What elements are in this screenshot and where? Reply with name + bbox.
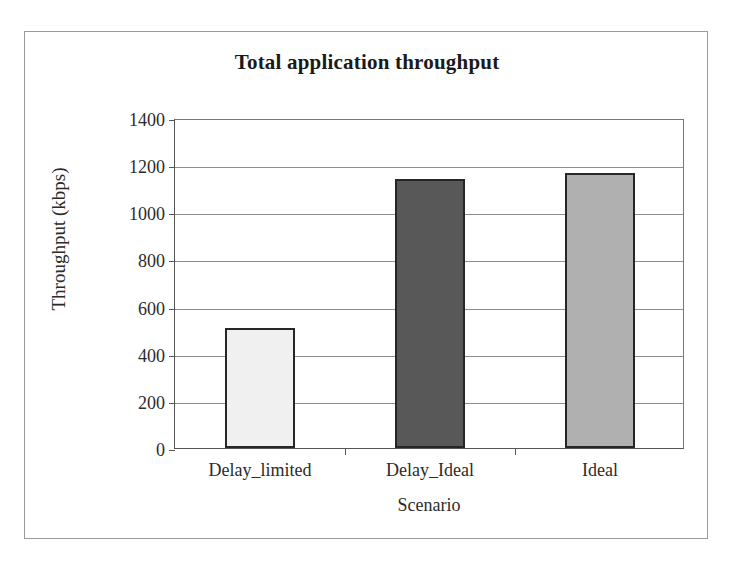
y-tick-label-400: 400 [138, 345, 165, 366]
chart-title: Total application throughput [25, 50, 709, 75]
y-axis-title: Throughput (kbps) [48, 139, 70, 339]
y-tick-label-1400: 1400 [129, 110, 165, 131]
y-tick-label-600: 600 [138, 298, 165, 319]
plot-area: 1400120010008006004002000 Delay_limitedD… [174, 119, 684, 449]
x-tick-mark-1 [345, 448, 346, 455]
y-tick-label-800: 800 [138, 251, 165, 272]
bar-ideal [565, 173, 635, 448]
y-tick-mark-400 [169, 356, 175, 357]
gridline-1200 [175, 167, 683, 168]
y-tick-mark-200 [169, 403, 175, 404]
x-tick-mark-2 [515, 448, 516, 455]
y-tick-label-200: 200 [138, 392, 165, 413]
y-tick-mark-600 [169, 309, 175, 310]
y-tick-label-1200: 1200 [129, 157, 165, 178]
y-tick-label-1000: 1000 [129, 204, 165, 225]
bar-delay_limited [225, 328, 295, 448]
y-tick-label-0: 0 [156, 440, 165, 461]
x-category-label-delay_ideal: Delay_Ideal [386, 460, 474, 481]
y-tick-mark-0 [169, 450, 175, 451]
y-tick-mark-1400 [169, 120, 175, 121]
y-tick-mark-1200 [169, 167, 175, 168]
figure-frame: Total application throughput Throughput … [24, 31, 708, 539]
x-axis-title: Scenario [174, 495, 684, 516]
x-category-label-ideal: Ideal [582, 460, 618, 481]
x-category-label-delay_limited: Delay_limited [209, 460, 312, 481]
y-tick-mark-800 [169, 261, 175, 262]
bar-delay_ideal [395, 179, 465, 448]
y-tick-mark-1000 [169, 214, 175, 215]
